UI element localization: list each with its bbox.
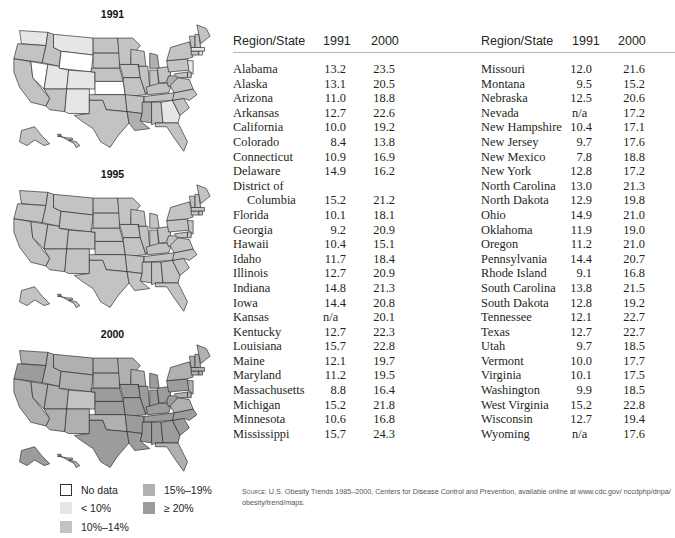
state-name: Alabama (233, 62, 278, 77)
table-row: Nebraska12.520.6 (481, 91, 675, 106)
value-2000: 19.4 (623, 412, 645, 427)
state-name: Wisconsin (481, 412, 533, 427)
state-name: Tennessee (481, 310, 532, 325)
value-2000: 20.1 (373, 310, 395, 325)
value-1991: 12.8 (570, 296, 592, 311)
state-ks (95, 401, 125, 414)
state-wy (59, 211, 93, 232)
table-row: New Mexico7.818.8 (481, 150, 675, 165)
state-name: Oklahoma (481, 223, 533, 238)
state-ma (191, 47, 204, 51)
table-row: Wyomingn/a17.6 (481, 427, 675, 442)
map-title: 2000 (0, 328, 225, 340)
state-ri (199, 211, 203, 215)
value-2000: 17.6 (623, 427, 645, 442)
table-row: Kansasn/a20.1 (233, 310, 473, 325)
source-label: Source: (242, 487, 267, 496)
value-2000: 21.6 (623, 62, 645, 77)
state-mi (150, 373, 159, 388)
state-ms (140, 422, 151, 443)
table-row: New York12.817.2 (481, 164, 675, 179)
table-row: Indiana14.821.3 (233, 281, 473, 296)
state-name: Missouri (481, 62, 525, 77)
us-map-1991 (12, 24, 212, 154)
value-2000: 18.8 (373, 91, 395, 106)
state-wi (131, 369, 146, 386)
state-name: Maine (233, 354, 265, 369)
value-1991: 9.7 (577, 339, 593, 354)
state-name: Hawaii (233, 237, 269, 252)
table-row: Utah9.718.5 (481, 339, 675, 354)
value-2000: 18.5 (623, 339, 645, 354)
state-ia (120, 64, 141, 77)
map-title: 1991 (0, 8, 225, 20)
value-1991: 9.5 (577, 77, 593, 92)
value-2000: 22.7 (623, 325, 645, 340)
state-name: Arkansas (233, 106, 279, 121)
state-ar (125, 95, 144, 114)
value-1991: 10.4 (324, 237, 346, 252)
value-2000: 22.8 (623, 398, 645, 413)
table-row: Missouri12.021.6 (481, 62, 675, 77)
value-2000: 17.6 (623, 135, 645, 150)
state-name: Iowa (233, 296, 258, 311)
table-row: New Hampshire10.417.1 (481, 120, 675, 135)
table-row: Arkansas12.722.6 (233, 106, 473, 121)
value-1991: n/a (572, 427, 587, 442)
state-name: Utah (481, 339, 505, 354)
state-ny (167, 362, 193, 381)
table-row: Washington9.918.5 (481, 383, 675, 398)
value-2000: 17.2 (623, 164, 645, 179)
value-1991: 12.0 (570, 62, 592, 77)
table-row: North Dakota12.919.8 (481, 193, 675, 208)
value-2000: 20.8 (373, 296, 395, 311)
state-name: District of (233, 179, 284, 194)
state-co (67, 390, 95, 409)
table-row: Maine12.119.7 (233, 354, 473, 369)
state-ny (167, 42, 193, 61)
state-pa (167, 219, 190, 232)
value-2000: 20.9 (373, 223, 395, 238)
state-wy (59, 371, 93, 392)
state-ma (191, 367, 204, 371)
value-2000: 22.6 (373, 106, 395, 121)
table-row: Alabama13.223.5 (233, 62, 473, 77)
value-2000: 21.2 (373, 193, 395, 208)
value-1991: 10.6 (324, 412, 346, 427)
state-fl (155, 123, 187, 151)
maps-column: 1991 1995 2000 No data < 10% 10%–14% 15%… (0, 0, 225, 538)
state-wa (20, 191, 48, 206)
state-name: Alaska (233, 77, 267, 92)
table-row: Maryland11.219.5 (233, 368, 473, 383)
value-2000: 21.5 (623, 281, 645, 296)
table-row: Alaska13.120.5 (233, 77, 473, 92)
state-sd (93, 53, 119, 68)
value-2000: 22.8 (373, 339, 395, 354)
state-co (67, 70, 95, 89)
value-1991: 12.1 (570, 310, 592, 325)
value-2000: 22.7 (623, 310, 645, 325)
legend-item-15-19: 15%–19% (143, 483, 212, 497)
state-name: Mississippi (233, 427, 289, 442)
state-name: Idaho (233, 252, 261, 267)
value-1991: 13.0 (570, 179, 592, 194)
value-2000: 13.8 (373, 135, 395, 150)
value-1991: 15.7 (324, 427, 346, 442)
header-region-right: Region/State (481, 34, 553, 48)
state-ne (91, 68, 123, 81)
legend-label: ≥ 20% (164, 502, 194, 514)
table-row: Virginia10.117.5 (481, 368, 675, 383)
state-nd (93, 358, 119, 373)
table-row: Kentucky12.722.3 (233, 325, 473, 340)
state-ar (125, 415, 144, 434)
table-row: Ohio14.921.0 (481, 208, 675, 223)
value-2000: 18.4 (373, 252, 395, 267)
value-1991: 8.8 (331, 383, 347, 398)
value-2000: 15.1 (373, 237, 395, 252)
value-1991: 10.4 (570, 120, 592, 135)
map-1991: 1991 (0, 0, 225, 160)
table-row: Vermont10.017.7 (481, 354, 675, 369)
swatch-lt10-icon (60, 502, 72, 514)
value-1991: 15.2 (324, 193, 346, 208)
value-1991: 15.2 (324, 398, 346, 413)
